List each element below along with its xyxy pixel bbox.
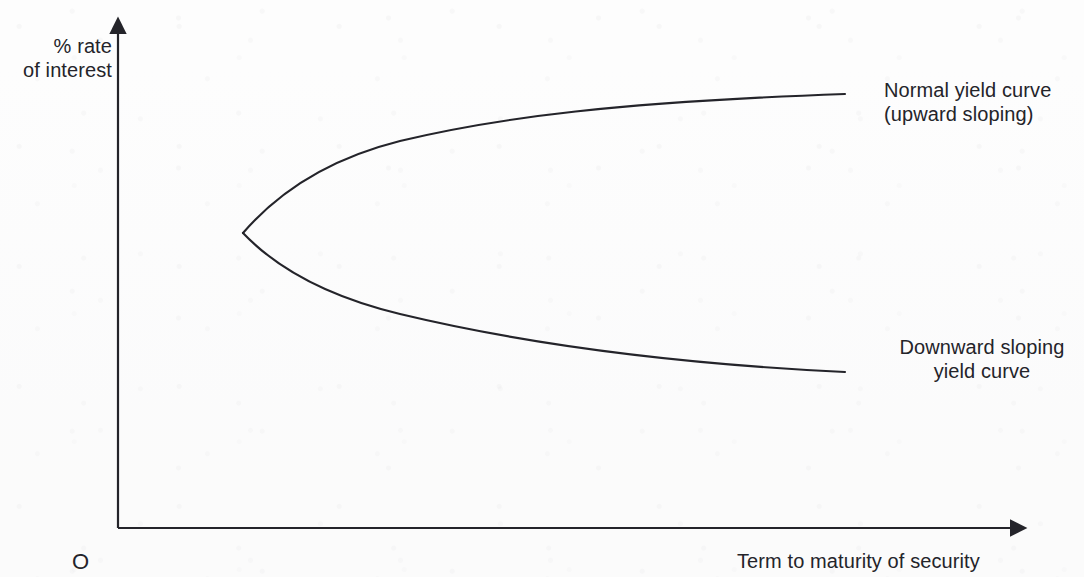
downward-yield-curve — [243, 233, 845, 372]
x-axis-label: Term to maturity of security — [737, 549, 980, 573]
origin-label: O — [72, 549, 89, 575]
yield-curve-figure: % rate of interest Term to maturity of s… — [0, 0, 1084, 577]
normal-yield-curve — [243, 94, 845, 233]
downward-yield-curve-label: Downward sloping yield curve — [884, 335, 1080, 383]
y-axis-label: % rate of interest — [0, 34, 112, 82]
normal-yield-curve-label: Normal yield curve (upward sloping) — [884, 78, 1051, 126]
